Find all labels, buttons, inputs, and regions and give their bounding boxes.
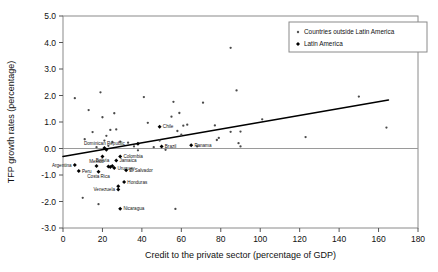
data-point-latam[interactable]: [114, 158, 118, 162]
data-point-outside[interactable]: [304, 136, 306, 138]
data-point-latam[interactable]: [95, 164, 99, 168]
data-point-outside[interactable]: [127, 142, 129, 144]
data-point-outside[interactable]: [99, 91, 101, 93]
data-point-outside[interactable]: [137, 149, 139, 151]
data-point-latam[interactable]: [77, 169, 81, 173]
marker-dot: [229, 47, 231, 49]
data-point-outside[interactable]: [105, 135, 107, 137]
data-point-latam[interactable]: [118, 207, 122, 211]
data-point-outside[interactable]: [109, 129, 111, 131]
data-point-outside[interactable]: [113, 112, 115, 114]
legend-item-outside[interactable]: Countries outside Latin America: [297, 28, 395, 35]
x-tick-label: 60: [177, 234, 187, 244]
data-point-outside[interactable]: [180, 134, 182, 136]
marker-dot: [218, 137, 220, 139]
data-point-outside[interactable]: [74, 97, 76, 99]
data-point-outside[interactable]: [87, 109, 89, 111]
data-point-latam[interactable]: [136, 142, 140, 146]
data-point-outside[interactable]: [216, 139, 218, 141]
marker-dot: [358, 95, 360, 97]
data-point-outside[interactable]: [174, 208, 176, 210]
figure-container: 5.04.03.02.01.00.0-1.0-2.0-3.00204060801…: [0, 0, 438, 272]
data-point-outside[interactable]: [214, 124, 216, 126]
data-point-outside[interactable]: [235, 89, 237, 91]
data-point-latam[interactable]: [122, 180, 126, 184]
data-point-latam[interactable]: [160, 144, 164, 148]
data-point-outside[interactable]: [143, 96, 145, 98]
data-point-outside[interactable]: [158, 139, 160, 141]
marker-dot: [153, 146, 155, 148]
legend-label: Latin America: [304, 40, 343, 47]
marker-dot: [115, 128, 117, 130]
y-tick-label: 1.0: [44, 117, 56, 127]
data-point-latam[interactable]: [116, 188, 120, 192]
data-point-latam[interactable]: [189, 143, 193, 147]
data-point-outside[interactable]: [133, 145, 135, 147]
data-point-outside[interactable]: [101, 116, 103, 118]
marker-dot: [202, 102, 204, 104]
data-point-outside[interactable]: [115, 128, 117, 130]
point-label-bolivia: Bolivia: [96, 158, 110, 163]
data-point-outside[interactable]: [358, 95, 360, 97]
marker-diamond: [189, 143, 193, 147]
marker-dot: [174, 208, 176, 210]
marker-dot: [105, 135, 107, 137]
point-label-argentina: Argentina: [52, 163, 72, 168]
data-point-outside[interactable]: [91, 131, 93, 133]
data-point-outside[interactable]: [172, 101, 174, 103]
marker-diamond: [116, 184, 120, 188]
x-axis-title: Credit to the private sector (percentage…: [145, 250, 336, 260]
data-point-outside[interactable]: [202, 102, 204, 104]
y-tick-label: -3.0: [41, 223, 56, 233]
marker-dot: [113, 112, 115, 114]
data-point-outside[interactable]: [229, 47, 231, 49]
data-point-latam[interactable]: [158, 125, 162, 129]
data-point-outside[interactable]: [176, 130, 178, 132]
point-label-brazil: Brazil: [165, 144, 177, 149]
data-point-outside[interactable]: [82, 197, 84, 199]
data-point-outside[interactable]: [170, 116, 172, 118]
data-point-outside[interactable]: [239, 130, 241, 132]
x-tick-label: 120: [293, 234, 307, 244]
point-label-dominican-republic: Dominican Republic: [84, 141, 126, 146]
data-point-outside[interactable]: [153, 146, 155, 148]
data-point-outside[interactable]: [186, 124, 188, 126]
data-point-outside[interactable]: [147, 122, 149, 124]
x-tick-label: 180: [411, 234, 425, 244]
data-point-latam[interactable]: [73, 163, 77, 167]
legend-item-latam[interactable]: Latin America: [296, 40, 343, 47]
point-label-costa-rica: Costa Rica: [87, 174, 110, 179]
x-tick-label: 80: [216, 234, 226, 244]
data-point-outside[interactable]: [218, 137, 220, 139]
marker-dot: [109, 129, 111, 131]
marker-diamond: [158, 125, 162, 129]
point-label-nicaragua: Nicaragua: [123, 206, 144, 211]
data-point-outside[interactable]: [95, 146, 97, 148]
data-point-outside[interactable]: [97, 203, 99, 205]
point-label-panama: Panama: [194, 143, 212, 148]
marker-dot: [176, 130, 178, 132]
data-point-outside[interactable]: [178, 112, 180, 114]
marker-diamond: [118, 207, 122, 211]
marker-diamond: [122, 180, 126, 184]
marker-dot: [216, 139, 218, 141]
y-tick-label: 0.0: [44, 144, 56, 154]
marker-dot: [158, 139, 160, 141]
data-point-outside[interactable]: [237, 142, 239, 144]
marker-dot: [385, 126, 387, 128]
data-point-latam[interactable]: [116, 184, 120, 188]
x-tick-label: 140: [332, 234, 346, 244]
marker-diamond: [73, 163, 77, 167]
marker-dot: [239, 130, 241, 132]
data-point-outside[interactable]: [229, 131, 231, 133]
marker-dot: [261, 118, 263, 120]
data-point-outside[interactable]: [261, 118, 263, 120]
data-point-outside[interactable]: [239, 145, 241, 147]
marker-diamond: [160, 144, 164, 148]
data-point-outside[interactable]: [385, 126, 387, 128]
y-tick-label: 3.0: [44, 64, 56, 74]
y-tick-label: -1.0: [41, 170, 56, 180]
legend-marker-dot: [297, 31, 299, 33]
x-tick-label: 100: [253, 234, 267, 244]
data-point-outside[interactable]: [182, 125, 184, 127]
